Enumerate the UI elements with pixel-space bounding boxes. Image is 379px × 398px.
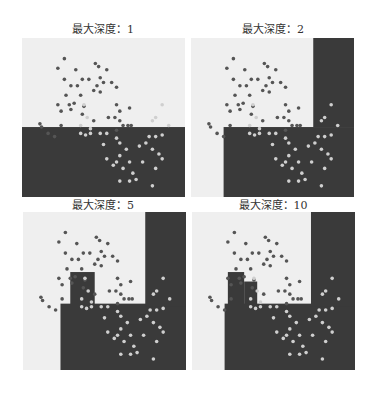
panel-1-title: 最大深度：1	[18, 20, 188, 36]
panel-1-plot	[22, 38, 185, 197]
panel-3-title: 最大深度：5	[18, 196, 188, 212]
panel-2-title: 最大深度：2	[188, 20, 358, 36]
panel-3-plot	[23, 212, 186, 370]
panel-4-title: 最大深度：10	[188, 196, 358, 212]
panel-2-plot	[191, 38, 354, 197]
panel-4-plot	[192, 212, 355, 370]
